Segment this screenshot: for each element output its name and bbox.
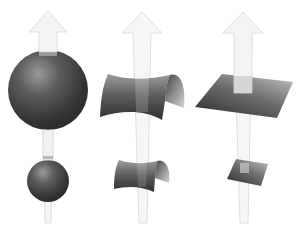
saddle-column <box>100 12 184 223</box>
curvature-diagram <box>0 0 303 234</box>
small-saddle <box>114 160 169 192</box>
small-sphere <box>27 160 69 202</box>
arrow-up-icon <box>122 12 162 223</box>
large-sphere <box>8 50 88 130</box>
sphere-column <box>8 11 88 223</box>
plane-column <box>195 12 293 223</box>
arrow-up-icon <box>29 11 67 52</box>
